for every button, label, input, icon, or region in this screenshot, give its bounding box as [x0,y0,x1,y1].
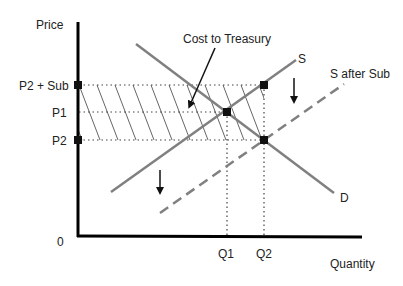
marker-axis-p2-plus-sub [74,81,82,89]
supply-after-subsidy-label: S after Sub [330,67,390,81]
price-label-p1: P1 [52,106,67,120]
price-label-p2: P2 [52,134,67,148]
marker-equilibrium-p2 [260,136,268,144]
marker-axis-p2 [74,136,82,144]
annotation-pointer-arrow-icon [190,48,215,105]
supply-curve [111,60,296,192]
marker-supply-q2 [260,81,268,89]
quantity-label-q1: Q1 [218,247,234,261]
y-axis-label: Price [36,18,64,32]
supply-after-subsidy-curve [160,84,344,213]
marker-equilibrium-p1 [223,108,231,116]
origin-label: 0 [57,235,64,249]
demand-curve [136,44,334,193]
guide-lines [79,85,264,236]
subsidy-diagram: Price Quantity 0 P2 + Sub P1 P2 Q1 Q2 S … [0,0,403,286]
x-axis-label: Quantity [330,257,375,271]
demand-curve-label: D [340,191,349,205]
price-label-p2-plus-sub: P2 + Sub [19,79,69,93]
supply-curve-label: S [298,52,306,66]
quantity-label-q2: Q2 [256,247,272,261]
cost-to-treasury-label: Cost to Treasury [183,32,271,46]
x-axis [77,236,362,237]
